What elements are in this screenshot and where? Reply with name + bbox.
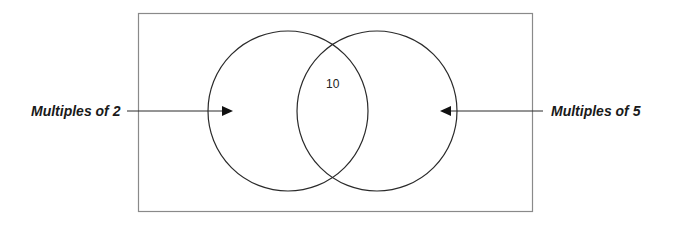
- set-label-multiples-of-2: Multiples of 2: [31, 103, 120, 119]
- arrow-left-pointer: [127, 106, 233, 116]
- set-circle-multiples-of-5: [297, 31, 457, 191]
- arrow-right-pointer: [440, 106, 543, 116]
- set-label-multiples-of-5: Multiples of 5: [551, 103, 640, 119]
- intersection-value: 10: [326, 77, 339, 91]
